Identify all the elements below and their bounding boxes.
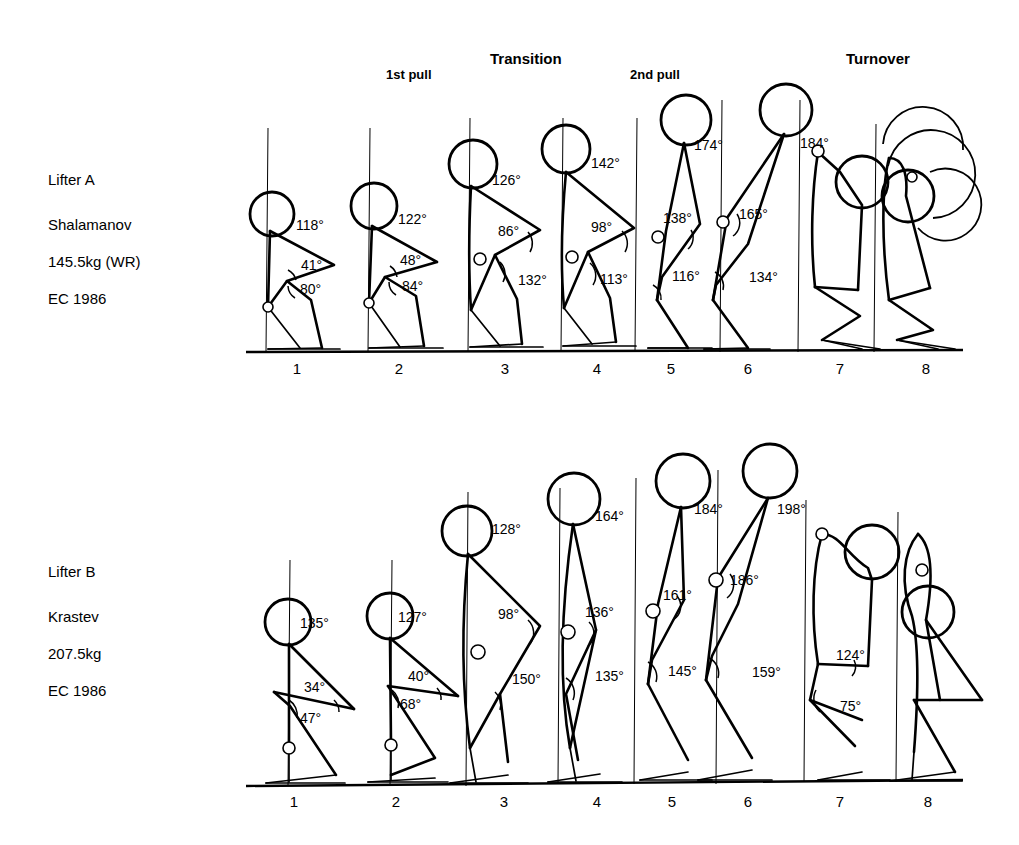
lifter-a-frame-1-angle: 41° — [301, 257, 322, 273]
frame-numbers-lifter-a: 12345678 — [293, 360, 930, 377]
lifter-a-frame-number-8: 8 — [922, 360, 930, 377]
lifter-a-frame-3-angle: 126° — [492, 172, 521, 188]
lifter-a-frame-number-7: 7 — [836, 360, 844, 377]
lifter-a-sequence — [246, 84, 981, 352]
lifter-b-frame-8 — [890, 534, 982, 781]
lifter-b-frame-2-angle: 40° — [408, 668, 429, 684]
lifter-a-frame-1-angle: 118° — [296, 217, 324, 233]
kinogram-root: 1st pullTransition2nd pullTurnover Lifte… — [0, 0, 1019, 845]
lifter-b-frame-4-angle: 135° — [595, 668, 624, 684]
lifter-a-frame-5-angle: 174° — [694, 137, 723, 153]
lifter-b-frame-number-5: 5 — [668, 793, 676, 810]
lifter-a-frame-number-2: 2 — [395, 360, 403, 377]
lifter-a-frame-3-angle: 86° — [498, 223, 519, 239]
lifter-a-frame-1 — [250, 192, 340, 349]
lifter-a-frame-6-angle: 134° — [749, 269, 778, 285]
lifter-a-frame-2 — [351, 183, 443, 348]
lifter-b-frame-7-angle: 75° — [840, 698, 861, 714]
lifter-b-frame-1-angle: 135° — [300, 615, 329, 631]
reference-lines-lifter-a — [266, 100, 876, 352]
lifter-b-frame-3 — [442, 506, 540, 783]
lifter-b-frame-number-2: 2 — [392, 793, 400, 810]
lifter-a-frame-5-angle: 138° — [663, 210, 692, 226]
baseline-lifter-a — [246, 350, 963, 352]
lifter-a-frame-1-angle: 80° — [300, 281, 321, 297]
lifter-b-frame-5-angle: 145° — [668, 663, 697, 679]
lifter-a-frame-5-angle: 116° — [672, 268, 700, 284]
lifter-a-frame-4 — [542, 125, 636, 346]
lifter-b-frame-4-angle: 136° — [585, 604, 614, 620]
lifter-b-frame-3-angle: 128° — [492, 521, 521, 537]
lifter-b-frame-6-angle: 198° — [777, 501, 806, 517]
lifter-b-frame-1-angle: 47° — [300, 710, 321, 726]
lifter-b-frame-3-angle: 98° — [498, 606, 519, 622]
lifter-b-frame-number-8: 8 — [924, 793, 932, 810]
lifter-a-frame-3-angle: 132° — [518, 272, 547, 288]
lifter-b-frame-1-angle: 34° — [304, 679, 325, 695]
lifter-b-frame-6-angle: 159° — [752, 664, 781, 680]
lifter-b-frame-6 — [698, 444, 797, 780]
lifter-b-frame-number-6: 6 — [744, 793, 752, 810]
lifter-a-frame-2-angle: 122° — [398, 211, 427, 227]
baseline-lifter-b — [246, 780, 963, 786]
lifter-b-frame-3-angle: 150° — [512, 671, 541, 687]
lifter-b-frame-5-angle: 161° — [663, 587, 692, 603]
lifter-b-sequence — [246, 444, 982, 786]
lifter-a-frame-4-angle: 113° — [600, 271, 628, 287]
lifter-b-frame-number-1: 1 — [290, 793, 298, 810]
lifter-b-frame-number-7: 7 — [836, 793, 844, 810]
lifter-b-frame-5-angle: 184° — [694, 501, 723, 517]
lifter-b-frame-6-angle: 186° — [730, 572, 759, 588]
lifter-a-frame-4-angle: 98° — [591, 219, 612, 235]
lifter-a-frame-number-1: 1 — [293, 360, 301, 377]
lifter-b-frame-2-angle: 127° — [398, 609, 427, 625]
lifter-b-frame-number-3: 3 — [500, 793, 508, 810]
lifter-a-frame-number-4: 4 — [593, 360, 601, 377]
lifter-b-frame-2-angle: 68° — [400, 696, 421, 712]
lifter-a-frame-4-angle: 142° — [591, 155, 620, 171]
lifter-a-frame-6-angle: 184° — [800, 135, 829, 151]
lifter-a-frame-2-angle: 84° — [402, 278, 423, 294]
frame-numbers-lifter-b: 12345678 — [290, 793, 932, 810]
lifter-b-frame-number-4: 4 — [593, 793, 601, 810]
lifter-a-frame-7 — [812, 145, 888, 349]
lifter-a-frame-8 — [882, 107, 981, 349]
lifter-a-frame-2-angle: 48° — [400, 252, 421, 268]
lifter-b-frame-7-angle: 124° — [836, 647, 865, 663]
lifter-a-frame-number-3: 3 — [501, 360, 509, 377]
lifter-b-frame-4-angle: 164° — [595, 508, 624, 524]
lifter-a-frame-6-angle: 165° — [739, 206, 768, 222]
lifter-a-frame-number-6: 6 — [744, 360, 752, 377]
kinogram-figure: 118°41°80°122°48°84°126°86°132°142°98°11… — [0, 0, 1019, 845]
lifter-a-frame-number-5: 5 — [667, 360, 675, 377]
